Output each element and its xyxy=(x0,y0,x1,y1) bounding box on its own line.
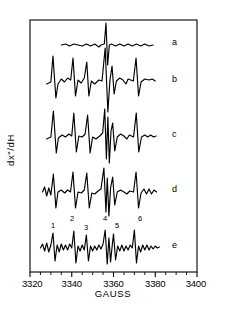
trace-label-e: e xyxy=(172,240,177,250)
peak-number-4: 4 xyxy=(103,214,107,223)
x-axis-title: GAUSS xyxy=(95,288,131,299)
spectrum-trace-e xyxy=(40,230,159,264)
peak-number-3: 3 xyxy=(84,223,88,232)
x-tick-label: 3380 xyxy=(145,278,165,289)
peak-number-annotations: 123456 xyxy=(51,214,142,232)
trace-label-c: c xyxy=(172,129,177,139)
peak-number-6: 6 xyxy=(138,214,142,223)
x-tick-label: 3400 xyxy=(186,278,206,289)
spectrum-trace-b xyxy=(47,48,156,112)
x-tick-label: 3340 xyxy=(62,278,82,289)
peak-number-1: 1 xyxy=(51,221,55,230)
peak-number-2: 2 xyxy=(70,214,74,223)
x-tick-label: 3320 xyxy=(22,278,42,289)
trace-label-d: d xyxy=(172,184,177,194)
trace-label-b: b xyxy=(172,74,177,84)
y-axis-title: dx"/dH xyxy=(5,134,16,166)
spectrum-trace-c xyxy=(47,109,156,163)
spectrum-trace-a xyxy=(61,23,153,65)
peak-number-5: 5 xyxy=(115,221,119,230)
trace-label-a: a xyxy=(172,37,177,47)
x-axis-ticks xyxy=(30,272,197,277)
spectra-plot: 33203340336033803400 abcde 123456 GAUSS … xyxy=(0,0,227,325)
trace-labels: abcde xyxy=(172,37,177,250)
spectrum-trace-d xyxy=(43,168,157,216)
epr-spectra-figure: 33203340336033803400 abcde 123456 GAUSS … xyxy=(0,0,227,325)
spectra-traces xyxy=(40,23,159,264)
